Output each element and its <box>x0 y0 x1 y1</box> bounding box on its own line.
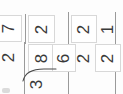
digit-glyph: 1 <box>100 24 117 33</box>
digit-glyph: 2 <box>76 53 93 62</box>
digit-glyph: 2 <box>33 24 50 33</box>
digit-glyph: 3 <box>29 79 46 88</box>
cell-dividend-2a[interactable]: 2 <box>0 43 22 72</box>
digit-glyph: 2 <box>1 53 18 62</box>
cell-quotient-2b[interactable]: 2 <box>28 15 55 43</box>
worksheet-canvas: 7 2 2 8 6 3 2 2 1 2 <box>0 0 123 94</box>
digit-glyph: 2 <box>76 24 93 33</box>
digit-glyph: 2 <box>100 53 117 62</box>
cell-quotient-2c[interactable]: 2 <box>71 15 97 43</box>
digit-glyph: 6 <box>56 53 73 62</box>
cell-dividend-2d[interactable]: 2 <box>71 44 97 72</box>
cell-dividend-2e[interactable]: 2 <box>95 44 121 72</box>
cell-quotient-1[interactable]: 1 <box>95 15 121 43</box>
digit-glyph: 7 <box>1 24 18 33</box>
cell-divisor-3[interactable]: 3 <box>24 74 50 94</box>
separator-rule-2 <box>25 14 26 44</box>
digit-glyph: 8 <box>33 53 50 62</box>
cell-quotient-7[interactable]: 7 <box>0 15 22 42</box>
scan-artifact <box>2 88 10 93</box>
